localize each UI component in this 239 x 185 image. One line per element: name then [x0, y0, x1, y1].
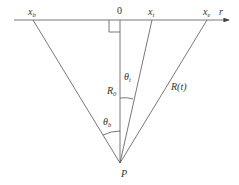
theta-b-arc: [103, 131, 120, 135]
right-angle-marker: [109, 20, 120, 32]
origin-label: 0: [117, 5, 122, 16]
rt-label: R(t): [170, 81, 187, 93]
apex-p-label: P: [120, 168, 127, 179]
ray-xt: [120, 20, 152, 163]
xb-label: xb: [27, 6, 36, 18]
theta-t-label: θt: [124, 71, 131, 83]
theta-b-label: θb: [103, 116, 112, 128]
r-axis-label: r: [219, 6, 223, 17]
geometry-diagram: r 0 xb xt xe θt θb R0 R(t) P: [0, 0, 239, 185]
theta-t-arc: [120, 98, 133, 99]
diagram-svg: r 0 xb xt xe θt θb R0 R(t) P: [0, 0, 239, 185]
xe-label: xe: [202, 6, 210, 18]
r0-label: R0: [106, 85, 117, 97]
ray-xe: [120, 20, 207, 163]
xt-label: xt: [147, 6, 154, 18]
